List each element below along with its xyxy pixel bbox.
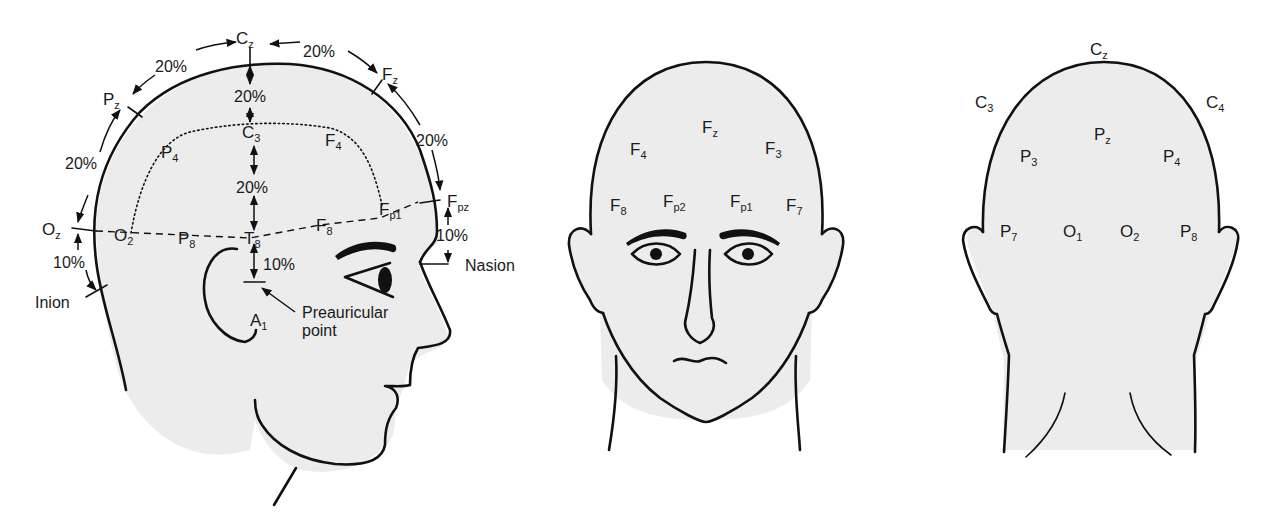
label-preauricular-point: point — [302, 322, 337, 339]
pct-fpz-nasion: 10% — [436, 227, 468, 244]
label-nasion: Nasion — [465, 257, 515, 274]
electrode-oz: Oz — [42, 220, 61, 241]
back-view-head — [963, 62, 1238, 457]
eeg-diagram: Cz Fz Fpz Pz Oz C3 F4 P4 Fp1 F8 T8 P8 O2… — [0, 0, 1270, 522]
back-electrode-c3: C3 — [975, 93, 993, 114]
label-inion: Inion — [35, 294, 70, 311]
side-view-head — [72, 42, 450, 505]
pct-cz-c3: 20% — [234, 88, 266, 105]
back-electrode-cz: Cz — [1090, 40, 1108, 61]
electrode-fpz: Fpz — [447, 192, 469, 213]
pct-cz-fz: 20% — [303, 43, 335, 60]
pct-fz-fpz: 20% — [416, 132, 448, 149]
pct-oz-inion: 10% — [53, 254, 85, 271]
electrode-cz: Cz — [236, 29, 254, 50]
label-preauricular: Preauricular — [302, 304, 389, 321]
electrode-fz: Fz — [382, 65, 398, 86]
electrode-pz: Pz — [103, 90, 120, 111]
pct-oz-pz: 20% — [65, 155, 97, 172]
pct-t8-preauricular: 10% — [263, 256, 295, 273]
pct-c3-t8: 20% — [236, 179, 268, 196]
back-electrode-c4: C4 — [1206, 93, 1224, 114]
pct-pz-cz: 20% — [155, 58, 187, 75]
